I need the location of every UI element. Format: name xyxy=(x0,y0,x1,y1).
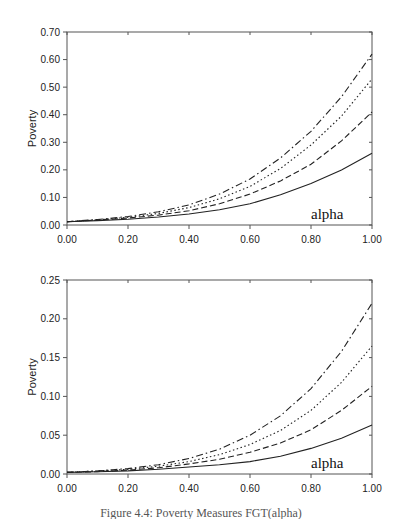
x-tick-label: 0.00 xyxy=(57,483,77,494)
y-axis-title: Poverty xyxy=(26,358,38,396)
x-tick-label: 0.40 xyxy=(179,483,199,494)
y-tick-label: 0.10 xyxy=(41,192,61,203)
y-tick-label: 0.50 xyxy=(41,82,61,93)
x-tick-label: 0.20 xyxy=(118,234,138,245)
y-tick-label: 0.25 xyxy=(41,275,61,286)
x-tick-label: 0.20 xyxy=(118,483,138,494)
poverty-chart-top: 0.000.100.200.300.400.500.600.700.000.20… xyxy=(26,27,382,246)
x-tick-label: 0.80 xyxy=(301,234,321,245)
y-tick-label: 0.30 xyxy=(41,137,61,148)
y-tick-label: 0.40 xyxy=(41,109,61,120)
y-tick-label: 0.70 xyxy=(41,27,61,38)
y-tick-label: 0.00 xyxy=(41,469,61,480)
y-tick-label: 0.10 xyxy=(41,391,61,402)
x-tick-label: 0.60 xyxy=(240,483,260,494)
y-tick-label: 0.15 xyxy=(41,352,61,363)
x-tick-label: 1.00 xyxy=(362,234,382,245)
series-dotted xyxy=(67,346,372,472)
y-axis-title: Poverty xyxy=(26,109,38,147)
series-dash-dot xyxy=(67,54,372,222)
poverty-chart-bottom: 0.000.050.100.150.200.250.000.200.400.60… xyxy=(26,275,382,495)
x-tick-label: 0.00 xyxy=(57,234,77,245)
y-tick-label: 0.60 xyxy=(41,54,61,65)
x-tick-label: 0.40 xyxy=(179,234,199,245)
plot-frame xyxy=(67,32,372,225)
figure-caption: Figure 4.4: Poverty Measures FGT(alpha) xyxy=(100,506,302,519)
x-tick-label: 0.60 xyxy=(240,234,260,245)
alpha-annotation: alpha xyxy=(311,206,344,222)
y-tick-label: 0.00 xyxy=(41,220,61,231)
y-tick-label: 0.05 xyxy=(41,430,61,441)
series-dash-dot xyxy=(67,303,372,472)
y-tick-label: 0.20 xyxy=(41,313,61,324)
x-tick-label: 0.80 xyxy=(301,483,321,494)
plot-frame xyxy=(67,280,372,474)
series-dotted xyxy=(67,79,372,222)
alpha-annotation: alpha xyxy=(311,455,344,471)
figure-canvas: 0.000.100.200.300.400.500.600.700.000.20… xyxy=(0,0,402,519)
y-tick-label: 0.20 xyxy=(41,164,61,175)
x-tick-label: 1.00 xyxy=(362,483,382,494)
